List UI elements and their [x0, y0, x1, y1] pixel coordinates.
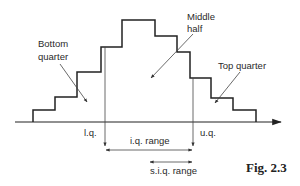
- middle-half-label-line1: Middle: [187, 11, 215, 22]
- middle-half-pointer: [151, 34, 193, 78]
- semi-interquartile-range-label: s.i.q. range: [150, 165, 197, 176]
- bottom-quarter-label-line1: Bottom: [38, 38, 68, 49]
- upper-quartile-label: u.q.: [200, 127, 216, 138]
- lower-quartile-label: l.q.: [84, 127, 97, 138]
- bottom-quarter-label-line2: quarter: [38, 51, 68, 62]
- histogram-outline: [33, 20, 256, 122]
- top-quarter-label: Top quarter: [218, 60, 266, 71]
- interquartile-range-label: i.q. range: [130, 135, 170, 146]
- frequency-distribution-diagram: Bottom quarter Middle half Top quarter l…: [0, 0, 300, 186]
- figure-label: Fig. 2.3: [246, 160, 287, 175]
- middle-half-label-line2: half: [187, 23, 203, 34]
